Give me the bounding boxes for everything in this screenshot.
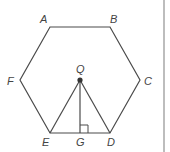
hexagon-diagram: A B C F E D G Q: [0, 0, 170, 152]
label-q: Q: [76, 63, 85, 75]
right-angle-marker: [80, 125, 88, 133]
label-e: E: [42, 136, 50, 148]
center-point-q: [77, 77, 82, 82]
label-d: D: [107, 136, 115, 148]
label-b: B: [110, 13, 117, 25]
label-g: G: [76, 136, 85, 148]
label-a: A: [39, 13, 47, 25]
label-f: F: [7, 75, 15, 87]
segment-qe: [50, 80, 80, 133]
label-c: C: [144, 75, 152, 87]
vertical-divider: [163, 0, 165, 152]
